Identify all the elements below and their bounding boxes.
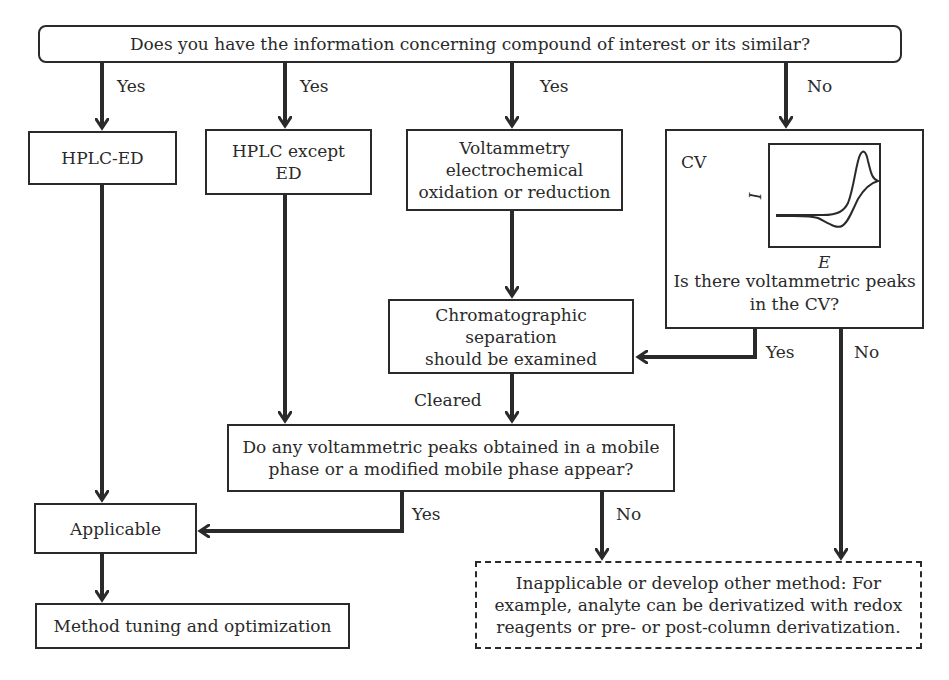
hplc-except-ed-box: HPLC except ED xyxy=(205,129,372,195)
cv-yes-label: Yes xyxy=(766,342,795,362)
peaks-question-box: Do any voltammetric peaks obtained in a … xyxy=(227,424,675,492)
branch-4-label: No xyxy=(807,76,832,96)
branch-3-label: Yes xyxy=(540,76,569,96)
voltammetry-box: Voltammetry electrochemical oxidation or… xyxy=(406,129,623,211)
top-question-text: Does you have the information concerning… xyxy=(130,33,810,55)
cv-title: CV xyxy=(681,151,706,173)
top-question-box: Does you have the information concerning… xyxy=(38,25,902,63)
cv-y-axis-label: I xyxy=(744,193,766,200)
inapplicable-line3: reagents or pre- or post-column derivati… xyxy=(496,616,900,638)
cleared-label: Cleared xyxy=(414,390,482,410)
hplc-except-line2: ED xyxy=(275,162,301,184)
branch-2-label: Yes xyxy=(300,76,329,96)
chromato-line2: should be examined xyxy=(425,348,597,370)
inapplicable-line1: Inapplicable or develop other method: Fo… xyxy=(516,572,881,594)
cv-box: CV I E Is there voltammetric peaks in th… xyxy=(665,129,924,329)
method-tuning-text: Method tuning and optimization xyxy=(53,615,331,637)
voltammetry-line3: oxidation or reduction xyxy=(419,181,611,203)
cv-no-label: No xyxy=(854,342,879,362)
cv-question-line2: in the CV? xyxy=(667,293,922,315)
peaks-no-label: No xyxy=(616,504,641,524)
chromatographic-separation-box: Chromatographic separation should be exa… xyxy=(388,299,634,374)
inapplicable-box: Inapplicable or develop other method: Fo… xyxy=(475,561,922,649)
chromato-line1: Chromatographic separation xyxy=(390,304,632,348)
method-tuning-box: Method tuning and optimization xyxy=(35,603,350,649)
branch-1-label: Yes xyxy=(117,76,146,96)
peaks-yes-label: Yes xyxy=(412,504,441,524)
peaks-q-line1: Do any voltammetric peaks obtained in a … xyxy=(242,436,659,458)
cv-question-line1: Is there voltammetric peaks xyxy=(667,270,922,292)
inapplicable-line2: example, analyte can be derivatized with… xyxy=(495,594,903,616)
cv-plot xyxy=(768,143,881,249)
peaks-q-line2: phase or a modified mobile phase appear? xyxy=(269,458,634,480)
voltammetry-line2: electrochemical xyxy=(446,159,583,181)
hplc-ed-text: HPLC-ED xyxy=(61,147,143,169)
hplc-except-line1: HPLC except xyxy=(232,140,345,162)
applicable-text: Applicable xyxy=(70,518,161,540)
voltammetry-line1: Voltammetry xyxy=(459,137,569,159)
hplc-ed-box: HPLC-ED xyxy=(28,131,177,185)
applicable-box: Applicable xyxy=(34,503,197,554)
